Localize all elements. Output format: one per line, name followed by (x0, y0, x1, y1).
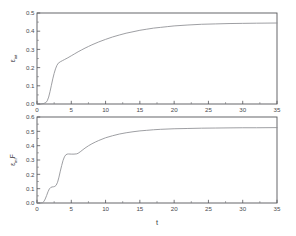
data-curve (37, 128, 277, 203)
x-tick-label: 35 (274, 205, 281, 212)
top-panel-plot: 0.00.10.20.30.40.505101520253035tεint (0, 0, 296, 118)
y-tick-label: 0.1 (26, 185, 35, 192)
x-tick-label: 0 (35, 205, 39, 212)
y-tick-label: 0.1 (26, 82, 35, 89)
y-tick-label: 0.4 (26, 27, 35, 34)
x-tick-label: 30 (239, 205, 246, 212)
bottom-panel: 0.00.10.20.30.40.50.605101520253035tεinf… (0, 110, 296, 236)
data-curve (37, 23, 277, 104)
y-axis-subscript: int (13, 54, 18, 59)
y-tick-label: 0.6 (26, 113, 35, 120)
y-tick-label: 0.3 (26, 46, 35, 53)
x-tick-label: 5 (70, 205, 74, 212)
y-axis-title: εint (9, 54, 18, 62)
x-tick-label: 20 (171, 205, 178, 212)
x-tick-label: 10 (102, 205, 109, 212)
x-tick-label: 25 (205, 205, 212, 212)
x-tick-label: 15 (136, 205, 143, 212)
plot-frame (37, 13, 277, 104)
y-axis-title-text: εinfF (9, 154, 18, 166)
y-tick-label: 0.4 (26, 142, 35, 149)
top-panel: 0.00.10.20.30.40.505101520253035tεint (0, 0, 296, 118)
bottom-panel-plot: 0.00.10.20.30.40.50.605101520253035tεinf… (0, 110, 296, 236)
y-tick-label: 0.5 (26, 9, 35, 16)
y-tick-label: 0.0 (26, 199, 35, 206)
y-tick-label: 0.5 (26, 128, 35, 135)
x-axis-title: t (156, 218, 158, 227)
y-tick-label: 0.3 (26, 156, 35, 163)
y-tick-label: 0.0 (26, 100, 35, 107)
y-axis-suffix: F (9, 154, 16, 158)
y-tick-label: 0.2 (26, 171, 35, 178)
y-tick-label: 0.2 (26, 64, 35, 71)
y-axis-title: εinfF (9, 154, 18, 166)
y-axis-title-text: εint (9, 54, 18, 62)
figure-container: 0.00.10.20.30.40.505101520253035tεint 0.… (0, 0, 296, 236)
